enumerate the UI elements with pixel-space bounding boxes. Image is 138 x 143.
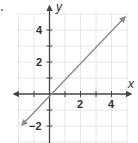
x-axis-label: x bbox=[127, 77, 135, 91]
y-tick-label-2: 2 bbox=[36, 56, 42, 68]
y-tick-label-neg2: −2 bbox=[29, 120, 42, 132]
y-axis-label: y bbox=[55, 0, 63, 14]
y-tick-label-4: 4 bbox=[36, 24, 43, 36]
x-tick-label-4: 4 bbox=[108, 98, 115, 110]
coordinate-plane: y x 4 2 −2 2 4 bbox=[0, 0, 138, 143]
x-tick-label-2: 2 bbox=[77, 98, 83, 110]
